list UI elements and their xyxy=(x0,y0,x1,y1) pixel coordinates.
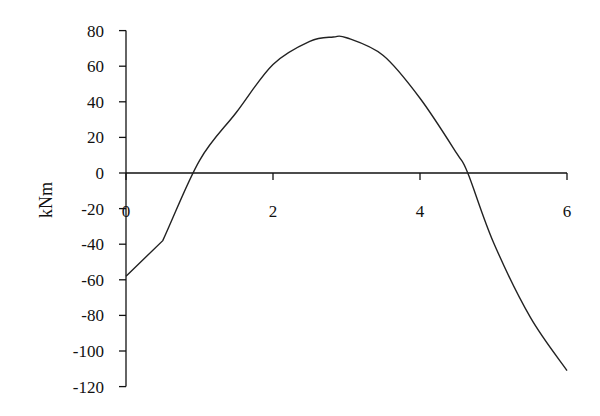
y-tick-label: -100 xyxy=(73,342,104,361)
y-axis: 806040200-20-40-60-80-100-120 xyxy=(73,22,126,397)
y-tick-label: 60 xyxy=(87,57,104,76)
y-tick-label: -20 xyxy=(81,200,104,219)
bending-moment-chart: 806040200-20-40-60-80-100-120 0246 kNm xyxy=(0,0,600,416)
y-tick-label: -80 xyxy=(81,306,104,325)
y-tick-label: 80 xyxy=(87,22,104,41)
y-tick-label: 0 xyxy=(96,164,105,183)
y-tick-label: -60 xyxy=(81,271,104,290)
y-tick-label: -120 xyxy=(73,378,104,397)
x-tick-label: 2 xyxy=(269,202,278,221)
x-tick-label: 4 xyxy=(416,202,425,221)
y-axis-label: kNm xyxy=(36,182,56,218)
y-tick-label: 20 xyxy=(87,128,104,147)
series-line xyxy=(126,36,567,371)
x-tick-label: 0 xyxy=(122,202,131,221)
x-tick-label: 6 xyxy=(563,202,572,221)
y-tick-label: 40 xyxy=(87,93,104,112)
y-tick-label: -40 xyxy=(81,235,104,254)
